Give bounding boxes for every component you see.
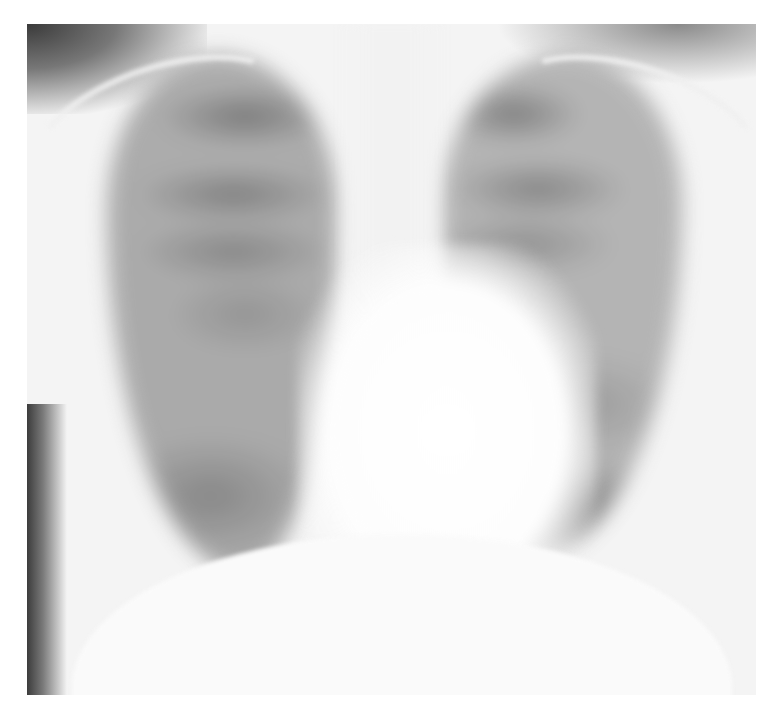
left-edge-soft-tissue	[27, 404, 67, 695]
diaphragm-abdomen	[72, 534, 732, 695]
cardiac-silhouette	[297, 244, 597, 584]
chest-xray-image	[27, 24, 756, 695]
